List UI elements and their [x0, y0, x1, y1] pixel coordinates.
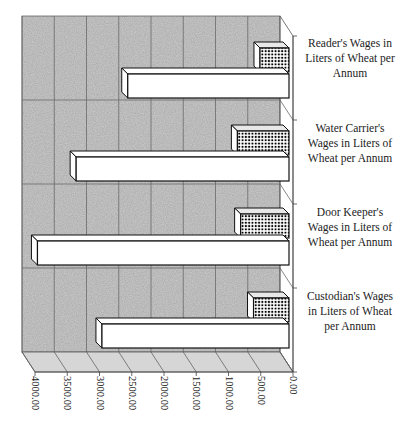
- category-label-custodian: Custodian's Wagesin Liters of Wheatper A…: [298, 289, 402, 334]
- axis-tick-label: 2000.00: [159, 376, 170, 410]
- bar-checkered-2: [235, 208, 289, 238]
- axis-tick-label: 1000.00: [224, 376, 235, 410]
- axis-tick-label: 1500.00: [191, 376, 202, 410]
- axis-tick-label: 2500.00: [127, 376, 138, 410]
- bar-white-1: [70, 151, 289, 181]
- axis-tick-label: 3500.00: [62, 376, 73, 410]
- axis-tick-label: 4000.00: [30, 376, 41, 410]
- category-label-water-carrier: Water Carrier'sWages in Liters ofWheat p…: [298, 121, 402, 166]
- bar-white-3: [96, 318, 289, 348]
- axis-tick-label: 3000.00: [95, 376, 106, 410]
- category-label-reader: Reader's Wages inLiters of Wheat perAnnu…: [298, 36, 402, 81]
- category-label-door-keeper: Door Keeper'sWages in Liters ofWheat per…: [298, 205, 402, 250]
- axis-tick-label: 500.00: [256, 376, 267, 405]
- bar-white-0: [122, 68, 289, 98]
- bar-white-2: [31, 235, 289, 265]
- axis-tick-label: 0.00: [288, 376, 299, 394]
- chart-floor: [22, 352, 293, 372]
